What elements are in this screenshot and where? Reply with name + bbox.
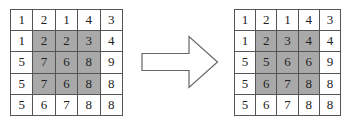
grid-row: 56788 bbox=[235, 73, 341, 94]
grid-cell: 5 bbox=[235, 94, 256, 115]
grid-cell: 2 bbox=[256, 10, 277, 31]
grid-cell-shaded: 7 bbox=[33, 52, 55, 73]
grid-cell: 3 bbox=[319, 10, 340, 31]
grid-cell-shaded: 3 bbox=[277, 31, 298, 52]
grid-cell: 5 bbox=[11, 52, 33, 73]
grid-cell-shaded: 5 bbox=[256, 52, 277, 73]
grid-after: 1214312344556695678856788 bbox=[234, 9, 341, 116]
grid-cell-shaded: 2 bbox=[256, 31, 277, 52]
grid-cell-shaded: 6 bbox=[55, 73, 77, 94]
grid-cell: 1 bbox=[11, 31, 33, 52]
grid-cell: 8 bbox=[319, 73, 340, 94]
grid-cell: 1 bbox=[11, 10, 33, 31]
grid-cell: 4 bbox=[298, 10, 319, 31]
grid-row: 57689 bbox=[11, 52, 123, 73]
grid-cell: 4 bbox=[319, 31, 340, 52]
grid-cell: 5 bbox=[235, 52, 256, 73]
grid-cell-shaded: 7 bbox=[33, 73, 55, 94]
grid-cell-shaded: 2 bbox=[33, 31, 55, 52]
grid-cell: 1 bbox=[277, 10, 298, 31]
grid-cell-shaded: 7 bbox=[277, 73, 298, 94]
grid-cell: 4 bbox=[100, 31, 122, 52]
grid-cell: 5 bbox=[235, 73, 256, 94]
grid-cell-shaded: 6 bbox=[298, 52, 319, 73]
grid-cell-shaded: 6 bbox=[55, 52, 77, 73]
grid-row: 12234 bbox=[11, 31, 123, 52]
grid-cell: 8 bbox=[298, 94, 319, 115]
grid-row: 12143 bbox=[235, 10, 341, 31]
grid-cell: 8 bbox=[319, 94, 340, 115]
grid-cell-shaded: 4 bbox=[298, 31, 319, 52]
grid-cell-shaded: 8 bbox=[298, 73, 319, 94]
grid-cell-shaded: 6 bbox=[277, 52, 298, 73]
grid-cell: 1 bbox=[235, 31, 256, 52]
grid-cell: 2 bbox=[33, 10, 55, 31]
grid-cell: 3 bbox=[100, 10, 122, 31]
grid-cell-shaded: 6 bbox=[256, 73, 277, 94]
grid-cell: 8 bbox=[78, 94, 100, 115]
right-arrow-icon bbox=[140, 35, 220, 89]
grid-row: 12143 bbox=[11, 10, 123, 31]
grid-cell: 9 bbox=[319, 52, 340, 73]
grid-cell-shaded: 2 bbox=[55, 31, 77, 52]
grid-cell: 6 bbox=[256, 94, 277, 115]
grid-row: 56788 bbox=[11, 94, 123, 115]
grid-cell: 1 bbox=[55, 10, 77, 31]
grid-before: 1214312234576895768856788 bbox=[10, 9, 123, 116]
grid-cell: 5 bbox=[11, 94, 33, 115]
grid-cell: 8 bbox=[100, 73, 122, 94]
grid-row: 55669 bbox=[235, 52, 341, 73]
grid-row: 12344 bbox=[235, 31, 341, 52]
grid-cell: 7 bbox=[55, 94, 77, 115]
grid-cell: 7 bbox=[277, 94, 298, 115]
grid-cell-shaded: 8 bbox=[78, 73, 100, 94]
grid-cell: 8 bbox=[100, 94, 122, 115]
grid-cell: 1 bbox=[235, 10, 256, 31]
grid-cell-shaded: 3 bbox=[78, 31, 100, 52]
grid-cell-shaded: 8 bbox=[78, 52, 100, 73]
grid-cell: 4 bbox=[78, 10, 100, 31]
grid-row: 57688 bbox=[11, 73, 123, 94]
grid-cell: 9 bbox=[100, 52, 122, 73]
grid-cell: 6 bbox=[33, 94, 55, 115]
grid-row: 56788 bbox=[235, 94, 341, 115]
grid-cell: 5 bbox=[11, 73, 33, 94]
